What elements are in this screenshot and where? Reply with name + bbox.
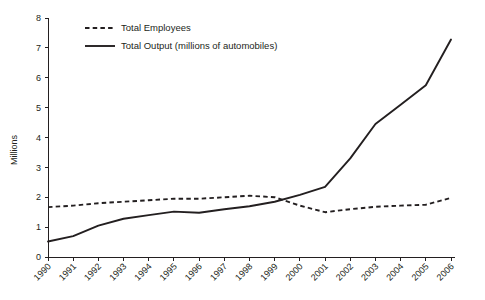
x-tick-label: 1997 [208, 261, 229, 282]
y-tick-label: 1 [36, 222, 41, 232]
x-tick-label: 1991 [57, 261, 78, 282]
x-tick-label: 2001 [309, 261, 330, 282]
series-line-total-employees [48, 196, 451, 212]
x-tick-label: 2005 [409, 261, 430, 282]
x-tick-label: 1995 [158, 261, 179, 282]
x-tick-label: 2002 [334, 261, 355, 282]
x-tick-label: 2000 [284, 261, 305, 282]
y-tick-label: 0 [36, 252, 41, 262]
legend-item-label: Total Employees [121, 22, 191, 33]
x-tick-label: 1993 [107, 261, 128, 282]
y-tick-label: 7 [36, 43, 41, 53]
line-chart: 012345678 199019911992199319941995199619… [0, 0, 485, 300]
y-tick-label: 6 [36, 73, 41, 83]
chart-legend: Total EmployeesTotal Output (millions of… [85, 22, 277, 51]
x-axis: 1990199119921993199419951996199719981999… [32, 257, 456, 283]
series-layer [48, 40, 451, 242]
chart-canvas: 012345678 199019911992199319941995199619… [0, 0, 485, 300]
y-tick-label: 5 [36, 103, 41, 113]
y-tick-label: 2 [36, 192, 41, 202]
x-tick-label: 2004 [384, 261, 405, 282]
x-tick-label: 2006 [435, 261, 456, 282]
y-tick-label: 4 [36, 133, 41, 143]
y-axis: 012345678 [36, 13, 48, 262]
x-tick-label: 1992 [82, 261, 103, 282]
x-tick-label: 1994 [132, 261, 153, 282]
legend-item-label: Total Output (millions of automobiles) [121, 40, 277, 51]
y-tick-label: 8 [36, 13, 41, 23]
series-line-total-output [48, 40, 451, 242]
x-tick-label: 1998 [233, 261, 254, 282]
x-tick-label: 2003 [359, 261, 380, 282]
y-tick-label: 3 [36, 163, 41, 173]
x-tick-label: 1996 [183, 261, 204, 282]
y-axis-title: Millions [9, 135, 19, 166]
x-tick-label: 1999 [258, 261, 279, 282]
x-tick-label: 1990 [32, 261, 53, 282]
